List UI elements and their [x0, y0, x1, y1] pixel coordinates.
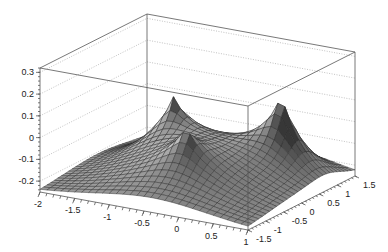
y-minor-tick [344, 181, 346, 182]
x-tick-label: 0 [174, 224, 179, 234]
y-minor-tick [287, 210, 289, 211]
y-tick-label: -1 [274, 225, 282, 235]
y-tick-label: -1.5 [256, 234, 272, 244]
surface-layer [40, 97, 355, 226]
x-minor-tick [240, 229, 241, 232]
x-minor-tick [164, 215, 165, 218]
y-minor-tick [262, 223, 264, 224]
x-minor-tick [198, 221, 199, 224]
x-minor-tick [226, 226, 227, 229]
y-minor-tick [266, 221, 268, 222]
x-tick-label: -2 [34, 199, 42, 209]
y-minor-tick [259, 225, 261, 226]
x-minor-tick [129, 208, 130, 211]
frame-edge [40, 68, 248, 106]
x-minor-tick [219, 225, 220, 228]
y-minor-tick [255, 226, 257, 227]
x-minor-tick [171, 216, 172, 219]
y-tick-label: 0 [310, 207, 315, 217]
y-minor-tick [302, 203, 304, 204]
y-minor-tick [337, 185, 339, 186]
x-minor-tick [212, 224, 213, 227]
y-minor-tick [280, 214, 282, 215]
y-minor-tick [291, 208, 293, 209]
y-minor-tick [319, 194, 321, 195]
y-minor-tick [355, 176, 357, 177]
frame-edge [147, 14, 355, 52]
x-minor-tick [136, 210, 137, 213]
z-tick-label: 0 [29, 133, 34, 143]
y-minor-tick [305, 201, 307, 202]
y-minor-tick [341, 183, 343, 184]
y-minor-tick [334, 187, 336, 188]
z-tick-label: 0.3 [21, 67, 34, 77]
y-tick-label: 1.5 [363, 180, 376, 190]
y-minor-tick [348, 180, 350, 181]
z-tick-label: 0.1 [21, 111, 34, 121]
x-minor-tick [247, 230, 248, 233]
y-minor-tick [273, 217, 275, 218]
surface-chart: -0.2-0.100.10.20.3-2-1.5-1-0.500.51-1.5-… [0, 0, 388, 252]
x-minor-tick [150, 212, 151, 215]
x-minor-tick [205, 222, 206, 225]
x-minor-tick [60, 196, 61, 199]
y-minor-tick [316, 196, 318, 197]
y-minor-tick [351, 178, 353, 179]
x-minor-tick [53, 195, 54, 198]
x-tick-label: 1 [243, 237, 248, 247]
x-tick-label: -0.5 [134, 218, 150, 228]
x-minor-tick [39, 192, 40, 195]
x-minor-tick [88, 201, 89, 204]
y-minor-tick [277, 216, 279, 217]
y-minor-tick [248, 230, 250, 231]
y-minor-tick [252, 228, 254, 229]
x-minor-tick [192, 220, 193, 223]
x-minor-tick [233, 227, 234, 230]
x-minor-tick [81, 200, 82, 203]
x-minor-tick [94, 202, 95, 205]
z-gridline [40, 18, 355, 72]
y-minor-tick [284, 212, 286, 213]
x-tick-label: -1 [103, 212, 111, 222]
z-tick-label: -0.2 [18, 176, 34, 186]
x-minor-tick [101, 203, 102, 206]
y-minor-tick [326, 190, 328, 191]
y-minor-tick [294, 207, 296, 208]
frame-edge [248, 52, 355, 106]
y-minor-tick [330, 189, 332, 190]
x-minor-tick [143, 211, 144, 214]
x-minor-tick [108, 205, 109, 208]
y-minor-tick [298, 205, 300, 206]
x-minor-tick [74, 198, 75, 201]
y-minor-tick [309, 199, 311, 200]
y-minor-tick [269, 219, 271, 220]
y-minor-tick [323, 192, 325, 193]
y-tick-label: -0.5 [292, 216, 308, 226]
x-minor-tick [46, 193, 47, 196]
x-tick-label: -1.5 [65, 205, 81, 215]
x-minor-tick [185, 219, 186, 222]
x-minor-tick [157, 214, 158, 217]
x-tick-label: 0.5 [205, 231, 218, 241]
x-minor-tick [115, 206, 116, 209]
z-tick-label: 0.2 [21, 89, 34, 99]
y-tick-label: 1 [345, 189, 350, 199]
y-tick-label: 0.5 [327, 198, 340, 208]
x-minor-tick [122, 207, 123, 210]
x-minor-tick [67, 197, 68, 200]
y-minor-tick [312, 198, 314, 199]
frame-edge [40, 14, 147, 68]
z-tick-label: -0.1 [18, 154, 34, 164]
x-minor-tick [178, 217, 179, 220]
